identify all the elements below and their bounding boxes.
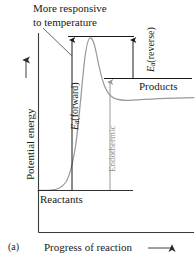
callout-line2: to temperature <box>33 17 97 28</box>
panel-label: (a) <box>8 242 19 252</box>
ea-forward-symbol: E <box>69 124 80 130</box>
callout-leader-line <box>43 28 72 56</box>
ea-forward-paren: (forward) <box>69 82 80 120</box>
ea-reverse-symbol: E <box>145 66 156 72</box>
endothermic-label: Endothermic <box>108 126 117 173</box>
ea-forward-label: Ea(forward) <box>70 82 81 130</box>
ea-reverse-label: Ea(reverse) <box>146 27 157 72</box>
ea-forward-subscript: a <box>73 121 81 124</box>
ea-reverse-paren: (reverse) <box>145 27 156 63</box>
y-axis-label: Potential energy <box>25 108 36 180</box>
callout-line1: More responsive <box>33 3 107 14</box>
ea-reverse-subscript: a <box>149 63 157 66</box>
reaction-energy-profile-figure: More responsive to temperature Ea(forwar… <box>0 0 196 261</box>
products-label: Products <box>139 81 178 92</box>
reactants-label: Reactants <box>40 194 83 205</box>
x-axis-label: Progress of reaction <box>44 242 132 253</box>
